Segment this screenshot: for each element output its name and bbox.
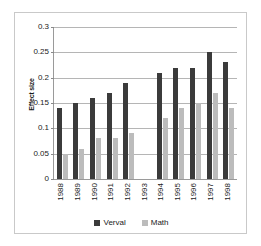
chart-legend: VervalMath xyxy=(15,219,248,227)
x-axis-label-cell: 1997 xyxy=(203,180,220,224)
bar-math-1990 xyxy=(96,138,101,179)
bar-group xyxy=(87,27,104,179)
x-axis-tick-label: 1995 xyxy=(174,183,182,201)
bar-math-1996 xyxy=(196,103,201,179)
legend-label: Verval xyxy=(103,219,125,227)
bar-group xyxy=(220,27,237,179)
bar-verval-1991 xyxy=(107,93,112,179)
y-axis-tick-label: 0.15 xyxy=(23,99,49,107)
bar-math-1994 xyxy=(163,118,168,179)
x-axis-tick-label: 1994 xyxy=(157,183,165,201)
x-axis-tick-label: 1991 xyxy=(107,183,115,201)
bar-math-1989 xyxy=(79,149,84,179)
x-axis-label-cell: 1988 xyxy=(53,180,70,224)
bar-group xyxy=(204,27,221,179)
bar-math-1991 xyxy=(113,138,118,179)
legend-entry-math[interactable]: Math xyxy=(142,219,169,227)
bar-verval-1990 xyxy=(90,98,95,179)
legend-label: Math xyxy=(151,219,169,227)
bar-verval-1997 xyxy=(207,52,212,179)
y-axis-tick-label: 0.1 xyxy=(23,124,49,132)
bar-series-container xyxy=(54,27,237,179)
bar-group xyxy=(121,27,138,179)
x-axis-tick-labels: 1988198919901991199219931994199519961997… xyxy=(53,180,236,224)
x-axis-tick-label: 1992 xyxy=(124,183,132,201)
x-axis-tick-label: 1990 xyxy=(91,183,99,201)
legend-swatch-icon xyxy=(94,220,100,226)
bar-verval-1996 xyxy=(190,68,195,179)
x-axis-tick-label: 1989 xyxy=(74,183,82,201)
legend-swatch-icon xyxy=(142,220,148,226)
y-axis-tick-label: 0.3 xyxy=(23,23,49,31)
x-axis-tick-label: 1998 xyxy=(224,183,232,201)
bar-group xyxy=(54,27,71,179)
bar-group xyxy=(137,27,154,179)
bar-group xyxy=(187,27,204,179)
bar-verval-1998 xyxy=(223,62,228,179)
x-axis-tick-label: 1988 xyxy=(57,183,65,201)
y-axis-tick-labels: 0.30.250.20.150.10.050 xyxy=(23,27,49,179)
y-axis-tick-label: 0.05 xyxy=(23,150,49,158)
x-axis-label-cell: 1989 xyxy=(70,180,87,224)
x-axis-label-cell: 1990 xyxy=(86,180,103,224)
legend-entry-verval[interactable]: Verval xyxy=(94,219,125,227)
bar-verval-1988 xyxy=(57,108,62,179)
y-axis-tick-label: 0 xyxy=(23,175,49,183)
y-axis-tick-label: 0.2 xyxy=(23,74,49,82)
bar-math-1988 xyxy=(63,154,68,179)
bar-math-1997 xyxy=(213,93,218,179)
bar-verval-1994 xyxy=(157,73,162,179)
x-axis-label-cell: 1996 xyxy=(186,180,203,224)
plot-area xyxy=(53,27,237,180)
chart-frame: Effect size 0.30.250.20.150.10.050 19881… xyxy=(14,12,247,234)
x-axis-label-cell: 1995 xyxy=(169,180,186,224)
bar-math-1998 xyxy=(229,108,234,179)
bar-verval-1989 xyxy=(73,103,78,179)
bar-group xyxy=(170,27,187,179)
x-axis-tick-label: 1997 xyxy=(207,183,215,201)
x-axis-tick-label: 1996 xyxy=(190,183,198,201)
bar-math-1992 xyxy=(129,133,134,179)
x-axis-tick-label: 1993 xyxy=(141,183,149,201)
bar-verval-1995 xyxy=(173,68,178,179)
bar-group xyxy=(104,27,121,179)
bar-math-1995 xyxy=(179,108,184,179)
bar-group xyxy=(71,27,88,179)
y-axis-tick-label: 0.25 xyxy=(23,48,49,56)
bar-verval-1992 xyxy=(123,83,128,179)
x-axis-label-cell: 1998 xyxy=(219,180,236,224)
bar-group xyxy=(154,27,171,179)
